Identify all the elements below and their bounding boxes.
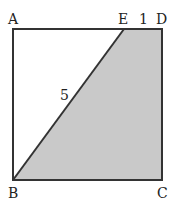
segment-label-ed: 1 bbox=[139, 11, 148, 27]
vertex-label-d: D bbox=[156, 11, 167, 27]
segment-label-be: 5 bbox=[60, 87, 69, 103]
vertex-label-e: E bbox=[118, 11, 128, 27]
vertex-label-b: B bbox=[8, 185, 18, 201]
shaded-trapezoid-edcb bbox=[13, 29, 162, 180]
square-diagram: A E 1 D 5 B C bbox=[0, 0, 175, 206]
vertex-label-a: A bbox=[7, 11, 19, 27]
vertex-label-c: C bbox=[157, 185, 168, 201]
